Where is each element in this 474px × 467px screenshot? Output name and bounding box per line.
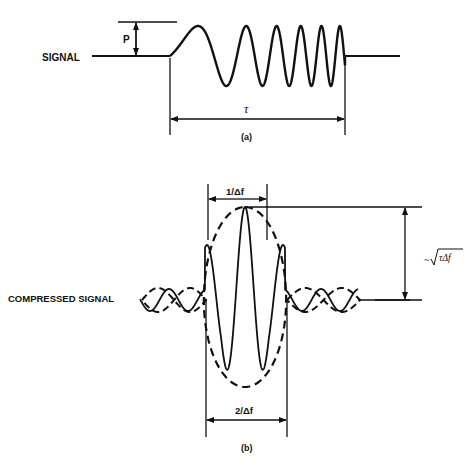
mainlobe-width-label: 1/Δf: [226, 186, 245, 197]
panel-a: SIGNAL P τ (a): [42, 22, 400, 142]
caption-b: (b): [241, 443, 253, 453]
amplitude-label: P: [123, 34, 130, 45]
gain-label-prefix: ~: [424, 254, 430, 265]
compressed-signal-label: COMPRESSED SIGNAL: [8, 293, 114, 304]
chirp-waveform: [170, 26, 345, 86]
panel-b: COMPRESSED SIGNAL 1/Δf ~ τΔf 2/Δf (b): [8, 184, 463, 453]
signal-label: SIGNAL: [42, 52, 80, 63]
duration-label: τ: [244, 102, 249, 116]
gain-label: τΔf: [439, 253, 452, 263]
base-width-label: 2/Δf: [235, 405, 254, 416]
caption-a: (a): [241, 132, 252, 142]
compressed-waveform: [140, 207, 358, 370]
pulse-compression-diagram: SIGNAL P τ (a) COMPRESSED SIGNAL: [0, 0, 474, 467]
